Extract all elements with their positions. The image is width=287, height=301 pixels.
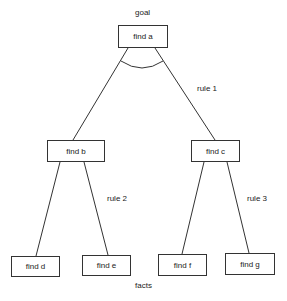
node-find-e: find e — [82, 255, 131, 276]
goal-label: goal — [135, 8, 150, 17]
rule-2-label: rule 2 — [107, 194, 127, 203]
node-find-b: find b — [47, 140, 105, 162]
and-arc — [121, 61, 163, 68]
edge-c-f — [182, 162, 204, 254]
node-find-g: find g — [225, 253, 275, 275]
node-find-c: find c — [191, 140, 240, 162]
rule-1-label: rule 1 — [197, 84, 217, 93]
node-find-d: find d — [11, 256, 60, 277]
edge-b-e — [84, 162, 108, 255]
node-find-f: find f — [158, 254, 207, 276]
edge-a-b — [73, 48, 128, 140]
edge-a-c — [155, 48, 215, 140]
node-find-a: find a — [118, 25, 168, 48]
facts-label: facts — [135, 281, 152, 290]
goal-tree-diagram: goal find a rule 1 find b find c rule 2 … — [0, 0, 287, 301]
rule-3-label: rule 3 — [247, 194, 267, 203]
edge-b-d — [36, 162, 60, 256]
edge-c-g — [227, 162, 249, 253]
